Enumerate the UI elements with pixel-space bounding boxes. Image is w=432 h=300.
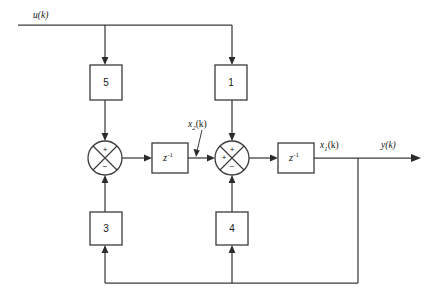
arrowhead-gain1-in bbox=[229, 57, 236, 65]
arrowhead-delay2-in bbox=[270, 155, 278, 162]
delay-block-1-exponent: -1 bbox=[167, 151, 173, 159]
summer-right-sign-top: + bbox=[230, 145, 235, 154]
label-output-yk: y(k) bbox=[380, 140, 396, 151]
delay-block-1[interactable]: z-1 bbox=[152, 143, 188, 173]
label-state-x1: x1(k) bbox=[319, 140, 339, 151]
arrowhead-gain3-in bbox=[102, 245, 109, 253]
gain-block-5-label: 5 bbox=[103, 77, 109, 88]
arrowhead-gain5-in bbox=[102, 57, 109, 65]
gain-block-1[interactable]: 1 bbox=[215, 65, 247, 100]
arrowhead-gain4-in bbox=[229, 245, 236, 253]
arrowhead-summer-right-top bbox=[229, 133, 236, 141]
label-x2-arg: (k) bbox=[196, 119, 207, 130]
block-diagram-canvas: 5 1 3 4 z-1 z-1 bbox=[0, 0, 432, 300]
arrowhead-summer-right-left bbox=[207, 155, 215, 162]
arrowhead-x2-leader bbox=[194, 149, 200, 157]
summer-left[interactable]: + − bbox=[88, 141, 122, 175]
label-state-x2: x2(k) bbox=[187, 119, 207, 130]
gain-block-4[interactable]: 4 bbox=[216, 212, 248, 245]
arrowhead-summer-left-top bbox=[102, 133, 109, 141]
arrowhead-summer-right-bottom bbox=[229, 175, 236, 183]
gain-block-3-label: 3 bbox=[103, 223, 109, 234]
label-x1-arg: (k) bbox=[328, 140, 339, 151]
block-diagram-svg: 5 1 3 4 z-1 z-1 bbox=[0, 0, 432, 300]
summer-right[interactable]: + + − bbox=[215, 141, 249, 175]
summer-left-sign-top: + bbox=[103, 145, 108, 154]
gain-block-5[interactable]: 5 bbox=[90, 65, 122, 100]
arrowhead-summer-left-bottom bbox=[102, 175, 109, 183]
summer-left-sign-bottom: − bbox=[103, 162, 108, 171]
summer-right-sign-bottom: − bbox=[230, 162, 235, 171]
summer-right-sign-left: + bbox=[222, 153, 227, 162]
arrowhead-output bbox=[411, 154, 421, 162]
arrowhead-delay1-in bbox=[144, 155, 152, 162]
gain-block-4-label: 4 bbox=[229, 223, 235, 234]
gain-block-1-label: 1 bbox=[228, 77, 234, 88]
leader-x2 bbox=[197, 130, 202, 151]
delay-block-2[interactable]: z-1 bbox=[278, 143, 314, 173]
label-input-uk: u(k) bbox=[33, 10, 48, 21]
delay-block-2-exponent: -1 bbox=[293, 151, 299, 159]
gain-block-3[interactable]: 3 bbox=[90, 212, 122, 245]
